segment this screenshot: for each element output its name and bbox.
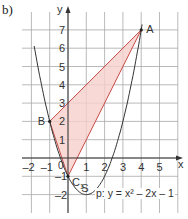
x-tick-label: 4: [138, 162, 144, 173]
origin-label: 0: [58, 161, 64, 171]
y-tick-label: 5: [59, 62, 65, 73]
y-tick-label: 7: [59, 25, 65, 36]
y-tick-label: 4: [59, 80, 65, 91]
y-tick-label: –1: [55, 171, 67, 182]
x-tick-label: 1: [83, 162, 89, 173]
vertex-s-label: S: [81, 183, 88, 194]
point-a-marker: [140, 28, 143, 31]
x-tick-label: 3: [120, 162, 126, 173]
part-label: b): [2, 2, 13, 18]
point-a-label: A: [146, 24, 153, 35]
y-tick-label: 6: [59, 43, 65, 54]
x-tick-label: –1: [41, 162, 53, 173]
y-tick-label: –2: [55, 190, 67, 201]
y-axis-label: y: [57, 4, 63, 15]
parabola-equation-label: p: y = x² – 2x – 1: [95, 188, 175, 199]
point-b-label: B: [38, 116, 45, 127]
x-tick-label: 2: [102, 162, 108, 173]
y-axis-arrow-icon: [66, 6, 71, 13]
y-tick-label: 2: [59, 116, 65, 127]
x-tick-label: 5: [157, 162, 163, 173]
y-tick-label: 3: [59, 98, 65, 109]
point-b-marker: [48, 120, 51, 123]
x-tick-label: –2: [22, 162, 34, 173]
y-tick-label: 1: [59, 135, 65, 146]
x-axis-label: x: [178, 159, 184, 170]
